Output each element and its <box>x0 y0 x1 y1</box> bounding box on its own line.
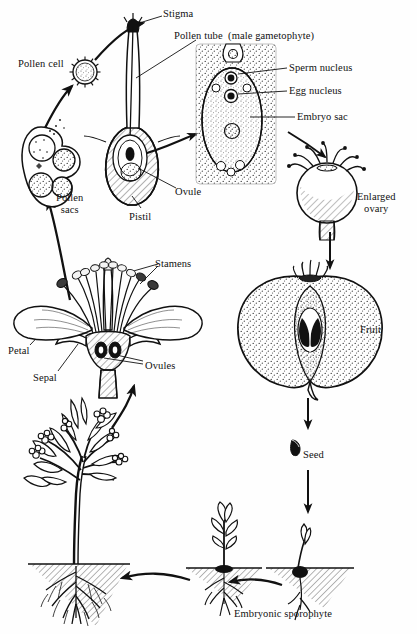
label-sperm-nucleus: Sperm nucleus <box>289 62 352 74</box>
label-sepal: Sepal <box>33 372 57 384</box>
label-petal: Petal <box>8 345 30 357</box>
label-enlarged-ovary: Enlarged ovary <box>357 191 396 214</box>
leader-sepal <box>58 344 78 371</box>
label-ovule: Ovule <box>175 186 201 198</box>
label-pollen-tube: Pollen tube (male gametophyte) <box>174 30 314 42</box>
diagram-canvas <box>0 0 417 634</box>
label-ovules: Ovules <box>145 360 175 372</box>
leader-pollen-tube <box>136 40 196 78</box>
pistil-figure <box>84 13 180 205</box>
embryo-sac-figure <box>196 44 276 184</box>
label-fruit: Fruit <box>360 324 381 336</box>
seedling-older-figure <box>205 502 243 616</box>
label-pollen-sacs: Pollen sacs <box>56 192 83 215</box>
seed-figure <box>291 440 300 456</box>
label-seed: Seed <box>303 449 324 461</box>
label-pistil: Pistil <box>129 211 151 223</box>
arrow-sporophyte-to-plant <box>122 574 190 580</box>
label-pollen-cell: Pollen cell <box>18 58 64 70</box>
enlarged-ovary-figure <box>287 141 366 240</box>
arrow-embryosac-to-ovary <box>288 132 325 157</box>
label-stamens: Stamens <box>155 258 191 270</box>
life-cycle-diagram: Stigma Pollen tube (male gametophyte) Po… <box>0 0 417 634</box>
label-stigma: Stigma <box>163 8 193 20</box>
pollen-cell-figure <box>70 57 101 88</box>
arrow-pollensacs-to-pollencell <box>45 86 72 128</box>
label-embryo-sac: Embryo sac <box>297 111 348 123</box>
label-egg-nucleus: Egg nucleus <box>289 85 342 97</box>
label-embryonic-sporophyte: Embryonic sporophyte <box>203 608 363 620</box>
